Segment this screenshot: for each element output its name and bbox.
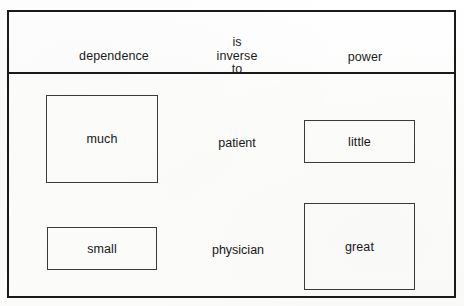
power-box-physician-label: great	[345, 240, 374, 254]
power-box-patient: little	[304, 120, 415, 163]
dependence-box-physician-label: small	[87, 242, 117, 256]
relation-line-3: to	[187, 63, 287, 77]
power-box-patient-label: little	[348, 135, 371, 149]
column-header-dependence: dependence	[39, 50, 189, 64]
column-header-relation: is inverse to	[187, 36, 287, 77]
header-divider-line	[9, 72, 454, 74]
subject-label-physician: physician	[188, 243, 288, 257]
figure-header-band: dependence is inverse to power	[9, 12, 454, 73]
dependence-box-patient-label: much	[87, 132, 118, 146]
relation-line-1: is	[187, 36, 287, 50]
dependence-box-physician: small	[47, 227, 157, 270]
subject-label-patient: patient	[188, 136, 286, 150]
dependence-box-patient: much	[46, 95, 158, 183]
inverse-relation-figure: dependence is inverse to power much pati…	[0, 0, 464, 306]
column-header-power: power	[305, 51, 425, 65]
relation-line-2: inverse	[187, 50, 287, 64]
power-box-physician: great	[304, 203, 415, 290]
